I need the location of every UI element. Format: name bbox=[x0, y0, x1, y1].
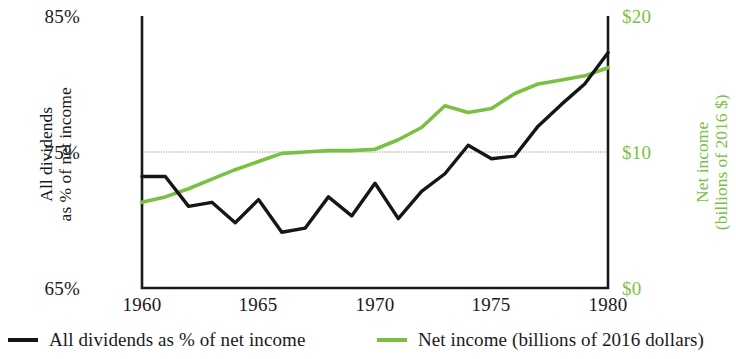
legend-label-dividends: All dividends as % of net income bbox=[49, 329, 305, 351]
chart-legend: All dividends as % of net income Net inc… bbox=[0, 325, 736, 359]
chart-figure: 85% 75% 65% $20 $10 $0 1960 1965 1970 19… bbox=[0, 0, 736, 359]
legend-swatch-net-income bbox=[377, 338, 407, 342]
legend-entry-net-income: Net income (billions of 2016 dollars) bbox=[377, 329, 704, 351]
plot-canvas bbox=[0, 0, 736, 359]
legend-swatch-dividends bbox=[8, 338, 38, 342]
legend-entry-dividends: All dividends as % of net income bbox=[8, 329, 305, 351]
series-line-dividends bbox=[142, 53, 608, 233]
legend-label-net-income: Net income (billions of 2016 dollars) bbox=[418, 329, 704, 351]
